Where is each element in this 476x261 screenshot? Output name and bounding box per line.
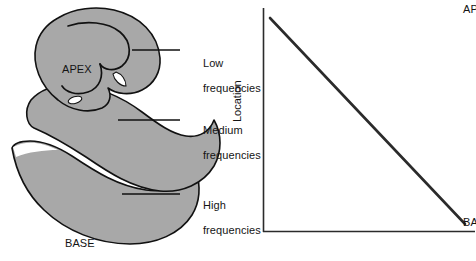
- data-line-location-vs-frequency: [270, 18, 465, 224]
- callout-low-line1: Low: [203, 57, 223, 69]
- callout-medium-line1: Medium: [203, 124, 243, 136]
- cochlea-apex-label: APEX: [62, 63, 92, 75]
- plot-svg: [238, 0, 476, 261]
- y-tick-label-apex: APEX: [463, 3, 476, 15]
- cochlea-base-label: BASE: [65, 237, 95, 249]
- cochlea-panel: APEX BASE Low frequencies Medium frequen…: [0, 0, 238, 261]
- y-axis-title: Location: [231, 80, 243, 122]
- location-frequency-plot: APEX BASE Low High Location Frequency al…: [238, 0, 476, 261]
- callout-high-line1: High: [203, 199, 226, 211]
- y-tick-label-base: BASE: [463, 216, 476, 228]
- figure-container: APEX BASE Low frequencies Medium frequen…: [0, 0, 476, 261]
